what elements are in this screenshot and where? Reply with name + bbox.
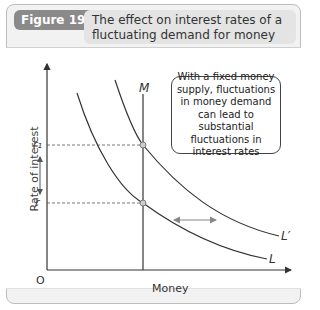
equilibrium-point-r1: [140, 142, 146, 148]
l-prime-label: L′: [281, 229, 290, 243]
callout-box: With a fixed money supply, fluctuations …: [171, 76, 281, 154]
origin-label: O: [36, 274, 45, 287]
x-axis-label: Money: [152, 282, 188, 295]
m-label: M: [139, 81, 149, 95]
y-axis-label: Rate of interest: [28, 132, 41, 212]
l-label: L: [269, 252, 276, 266]
equilibrium-point-r: [140, 200, 146, 206]
